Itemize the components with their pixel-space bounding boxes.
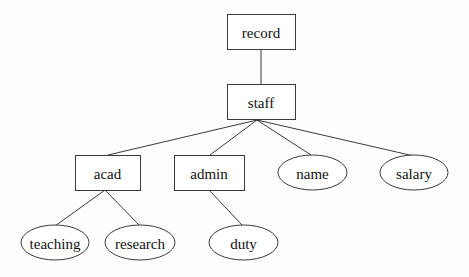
node-teaching: teaching	[21, 225, 89, 260]
node-research: research	[105, 225, 175, 260]
node-admin: admin	[175, 156, 245, 191]
edge-acad-to-research	[105, 190, 140, 226]
edge-staff-to-name	[257, 120, 311, 155]
tree-diagram-canvas: recordstaffacadadminnamesalaryteachingre…	[0, 0, 469, 277]
node-name: name	[278, 155, 347, 190]
edge-staff-to-salary	[257, 120, 414, 156]
node-label: teaching	[30, 236, 81, 252]
edge-admin-to-duty	[209, 190, 243, 226]
node-label: acad	[94, 166, 122, 182]
edge-staff-to-acad	[108, 120, 257, 155]
node-salary: salary	[380, 155, 448, 190]
edges-layer	[55, 49, 414, 226]
node-label: research	[115, 236, 165, 252]
node-duty: duty	[209, 225, 278, 260]
node-label: salary	[396, 166, 432, 182]
tree-diagram: recordstaffacadadminnamesalaryteachingre…	[0, 0, 469, 277]
edge-acad-to-teaching	[55, 190, 105, 226]
node-record: record	[228, 15, 296, 50]
node-staff: staff	[228, 85, 296, 120]
node-acad: acad	[76, 156, 141, 191]
node-label: duty	[230, 236, 257, 252]
node-label: staff	[248, 95, 274, 111]
node-label: admin	[190, 166, 228, 182]
node-label: name	[296, 166, 329, 182]
node-label: record	[242, 25, 281, 41]
